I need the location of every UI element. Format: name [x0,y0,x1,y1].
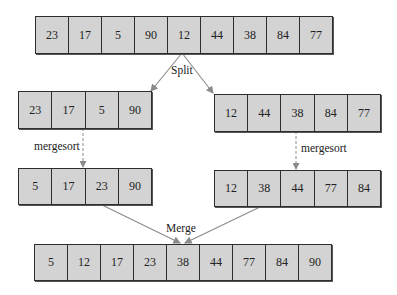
cell: 5 [19,169,52,204]
cell: 17 [69,17,102,53]
cell: 23 [86,169,119,204]
cell: 17 [52,169,85,204]
cell: 84 [267,17,300,53]
cell: 77 [315,171,348,206]
cell: 5 [102,17,135,53]
mergesort-label-right: mergesort [301,142,347,154]
cell: 12 [215,95,248,131]
cell: 17 [52,92,85,128]
cell: 17 [101,245,134,280]
cell: 90 [119,169,151,204]
cell: 23 [134,245,167,280]
cell: 44 [281,171,314,206]
cell: 44 [201,17,234,53]
cell: 12 [168,17,201,53]
cell: 23 [36,17,69,53]
cell: 38 [248,171,281,206]
cell: 44 [200,245,233,280]
cell: 23 [19,92,52,128]
split-label: Split [171,64,193,76]
cell: 77 [300,17,332,53]
cell: 44 [248,95,281,131]
cell: 38 [234,17,267,53]
cell: 90 [119,92,151,128]
array-right-sorted: 12 38 44 77 84 [214,170,381,207]
array-merged: 5 12 17 23 38 44 77 84 90 [34,244,332,281]
cell: 84 [266,245,299,280]
cell: 12 [215,171,248,206]
merge-label: Merge [166,222,196,234]
array-left-half: 23 17 5 90 [18,91,152,129]
cell: 5 [35,245,68,280]
mergesort-label-left: mergesort [34,140,80,152]
cell: 84 [315,95,348,131]
cell: 5 [86,92,119,128]
cell: 12 [68,245,101,280]
cell: 38 [281,95,314,131]
cell: 77 [233,245,266,280]
cell: 84 [348,171,380,206]
array-original: 23 17 5 90 12 44 38 84 77 [35,16,333,54]
cell: 90 [135,17,168,53]
array-right-half: 12 44 38 84 77 [214,94,381,132]
cell: 38 [167,245,200,280]
cell: 77 [348,95,380,131]
array-left-sorted: 5 17 23 90 [18,168,152,205]
cell: 90 [299,245,331,280]
merge-arrow-right [185,206,262,243]
